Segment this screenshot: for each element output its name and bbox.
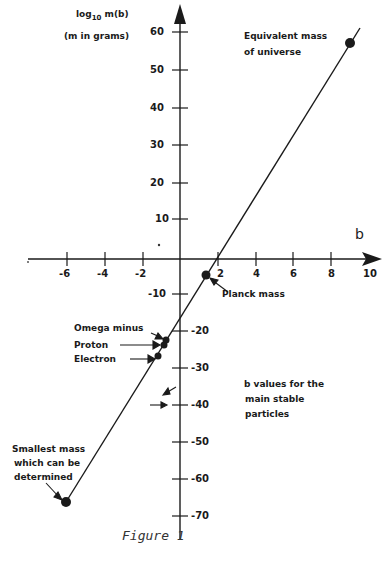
point-electron <box>155 353 162 360</box>
x-tick-10: 10 <box>363 268 377 280</box>
figure-caption: Figure 1 <box>122 528 185 543</box>
stray-dot <box>27 261 29 263</box>
y-tick-60: 60 <box>150 26 164 38</box>
universe-label-2: of universe <box>244 46 301 58</box>
smallest-label-1: Smallest mass <box>12 443 85 455</box>
y-tick-m50: -50 <box>191 436 209 448</box>
y-tick-40: 40 <box>150 102 164 114</box>
y-tick-m70: -70 <box>191 510 209 522</box>
bvalues-label-2: main stable <box>245 393 304 405</box>
y-tick-20: 20 <box>150 177 164 189</box>
stray-dot <box>158 244 160 246</box>
x-tick-2: 2 <box>217 268 224 280</box>
y-axis-arrow-icon <box>174 4 186 24</box>
proton-label: Proton <box>74 339 108 351</box>
y-tick-m40: -40 <box>191 399 209 411</box>
point-universe <box>345 38 355 48</box>
x-tick-8: 8 <box>328 268 335 280</box>
point-planck <box>202 271 211 280</box>
point-smallest <box>61 497 71 507</box>
smallest-label-3: determined <box>14 471 73 483</box>
x-tick-m2: -2 <box>135 268 146 280</box>
y-axis-units: (m in grams) <box>64 30 129 42</box>
x-tick-4: 4 <box>253 268 260 280</box>
universe-label-1: Equivalent mass <box>244 30 327 42</box>
omega-label: Omega minus <box>74 322 143 334</box>
mass-line <box>66 28 360 502</box>
electron-label: Electron <box>74 353 116 365</box>
y-tick-m10: -10 <box>148 288 166 300</box>
y-tick-50: 50 <box>150 64 164 76</box>
smallest-label-2: which can be <box>14 457 80 469</box>
y-axis-label-sub: 10 <box>92 14 102 22</box>
y-tick-10: 10 <box>155 213 169 225</box>
bvalues-label-3: particles <box>245 408 289 420</box>
x-tick-6: 6 <box>290 268 297 280</box>
x-axis-label: b <box>355 228 364 240</box>
bvalues-label-1: b values for the <box>244 378 324 390</box>
x-tick-m6: -6 <box>59 268 70 280</box>
x-tick-m4: -4 <box>97 268 108 280</box>
y-tick-30: 30 <box>150 139 164 151</box>
y-axis-label-log: log <box>76 9 92 19</box>
point-proton <box>161 342 168 349</box>
y-tick-m20: -20 <box>191 325 209 337</box>
y-tick-m60: -60 <box>191 473 209 485</box>
y-tick-m30: -30 <box>191 362 209 374</box>
planck-label: Planck mass <box>222 288 285 300</box>
y-axis-label-func: m(b) <box>105 9 129 19</box>
y-axis-label: log10 m(b) <box>76 8 129 24</box>
